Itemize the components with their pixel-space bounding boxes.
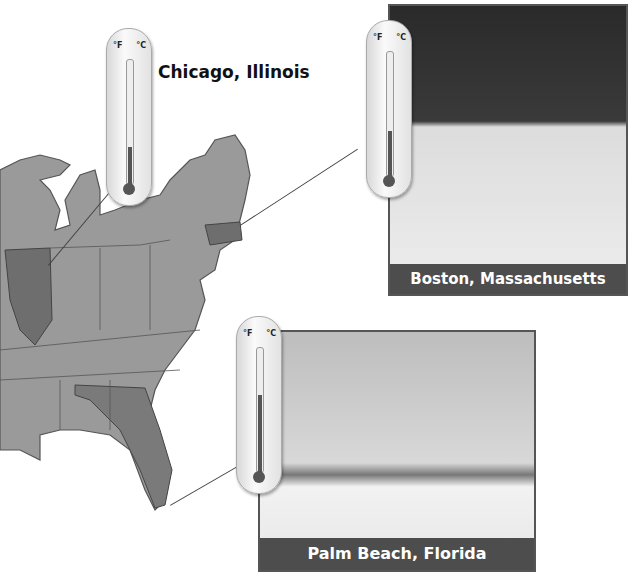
boston-photo: Boston, Massachusetts: [388, 4, 628, 296]
palm-beach-thermometer: °F °C: [236, 316, 282, 494]
chicago-label: Chicago, Illinois: [158, 62, 310, 82]
celsius-label: °C: [136, 41, 146, 50]
massachusetts-state: [205, 222, 242, 245]
celsius-label: °C: [396, 33, 406, 42]
celsius-label: °C: [266, 329, 276, 338]
fahrenheit-label: °F: [243, 329, 252, 338]
boston-caption: Boston, Massachusetts: [390, 264, 626, 294]
boston-thermometer: °F °C: [366, 20, 412, 198]
chicago-thermometer: °F °C: [106, 28, 152, 206]
fahrenheit-label: °F: [373, 33, 382, 42]
palm-beach-photo: Palm Beach, Florida: [258, 330, 536, 572]
fahrenheit-label: °F: [113, 41, 122, 50]
palm-beach-caption: Palm Beach, Florida: [260, 538, 534, 570]
